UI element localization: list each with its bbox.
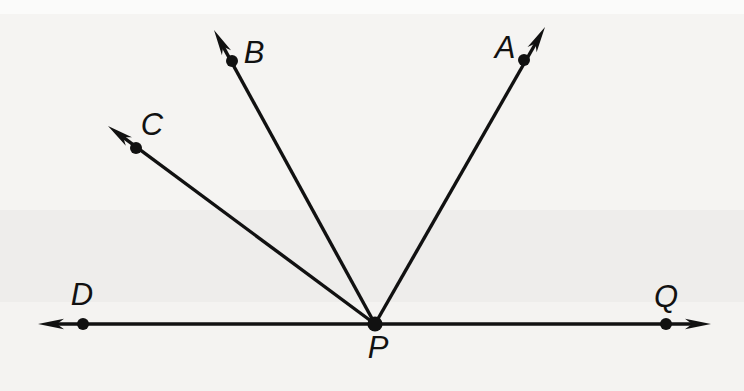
point-label-P: P [368,332,389,363]
point-dot-A [518,54,530,66]
point-label-C: C [141,109,163,140]
point-dot-B [226,55,238,67]
point-label-B: B [244,37,265,68]
rays-layer [55,42,694,324]
ray-segment-PA [375,42,537,324]
point-label-A: A [495,32,516,63]
arrowheads-layer [38,27,711,329]
ray-segment-PC [122,136,375,324]
point-label-D: D [71,279,93,310]
point-dot-C [130,142,142,154]
ray-segment-PB [222,45,375,324]
point-label-Q: Q [654,281,678,312]
diagram-page: ABCDQP [0,0,744,391]
arrowhead-B [214,30,231,55]
point-dot-D [77,318,89,330]
arrowhead-A [528,27,545,52]
point-dots-layer [77,54,672,332]
point-dot-Q [660,318,672,330]
